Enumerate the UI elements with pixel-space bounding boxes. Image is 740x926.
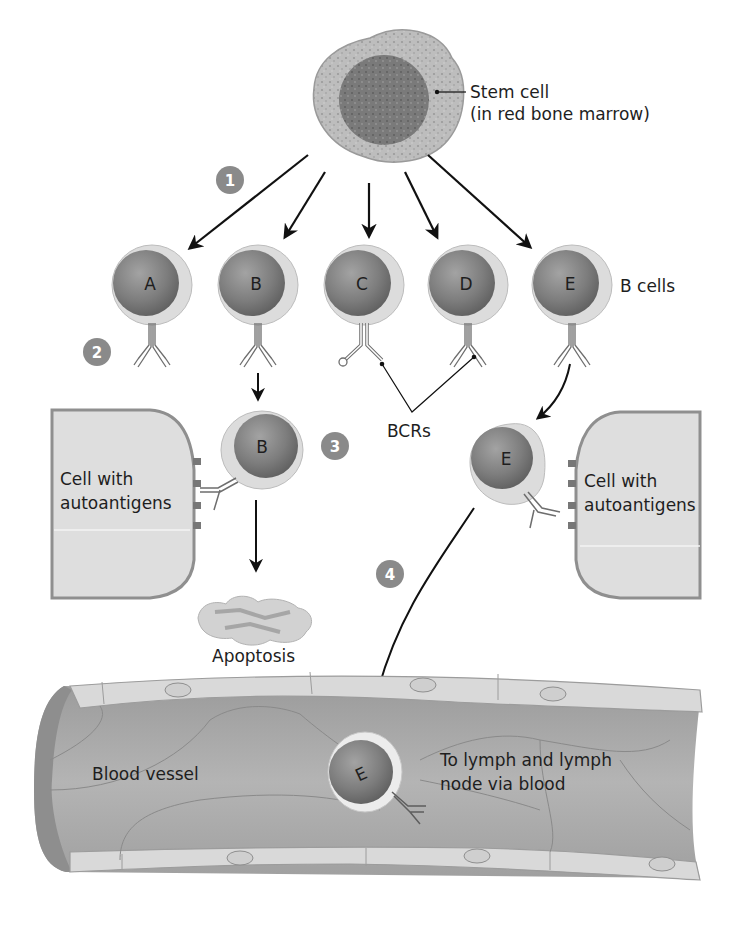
differentiation-arrows xyxy=(190,155,530,248)
endothelial-nucleus xyxy=(227,851,253,865)
right-target-label-2: autoantigens xyxy=(584,495,696,515)
b-cell-e: E xyxy=(532,245,612,367)
autoantigen-icon xyxy=(568,502,576,509)
bcr-icon xyxy=(450,323,486,367)
left-autoantigen-cell: Cell with autoantigens xyxy=(52,410,201,598)
svg-text:D: D xyxy=(459,274,472,294)
destination-label-1: To lymph and lymph xyxy=(439,750,612,770)
endothelial-nucleus xyxy=(464,849,490,863)
endothelial-nucleus xyxy=(165,683,191,697)
bcr-leader-lines xyxy=(380,355,477,412)
anergic-b-cell: E xyxy=(470,424,560,528)
step-badge-2: 2 xyxy=(83,338,111,366)
autoantigen-icon xyxy=(568,460,576,467)
b-cell-d: D xyxy=(428,245,508,367)
stem-cell-label: Stem cell xyxy=(470,82,549,102)
autoantigen-icon xyxy=(193,480,201,487)
endothelial-nucleus xyxy=(410,678,436,692)
endothelial-nucleus xyxy=(649,857,675,871)
b-cells-label: B cells xyxy=(620,276,675,296)
right-autoantigen-cell: Cell with autoantigens xyxy=(568,412,700,598)
arrow-e-down xyxy=(538,364,570,418)
autoantigen-icon xyxy=(568,522,576,529)
step-badge-4: 4 xyxy=(376,560,404,588)
blood-vessel-label: Blood vessel xyxy=(92,764,199,784)
b-cell-b: B xyxy=(218,245,298,367)
svg-text:4: 4 xyxy=(385,566,395,584)
b-cell-a: A xyxy=(112,245,192,367)
destination-label-2: node via blood xyxy=(440,774,566,794)
step-badge-3: 3 xyxy=(321,432,349,460)
svg-text:B: B xyxy=(250,274,262,294)
autoantigen-icon xyxy=(193,522,201,529)
bcr-icon xyxy=(240,323,276,367)
stem-cell-sublabel: (in red bone marrow) xyxy=(470,104,650,124)
svg-text:A: A xyxy=(144,274,156,294)
step-badge-1: 1 xyxy=(216,166,244,194)
left-target-label-1: Cell with xyxy=(60,469,133,489)
bcr-icon xyxy=(554,323,590,367)
bcr-icon xyxy=(134,323,170,367)
svg-text:C: C xyxy=(356,274,368,294)
right-target-label-1: Cell with xyxy=(584,471,657,491)
stem-cell: Stem cell (in red bone marrow) xyxy=(313,30,649,162)
svg-text:E: E xyxy=(501,449,512,469)
svg-text:E: E xyxy=(565,274,576,294)
svg-text:2: 2 xyxy=(92,344,102,362)
autoantigen-icon xyxy=(193,458,201,465)
autoantigen-icon xyxy=(193,502,201,509)
left-target-label-2: autoantigens xyxy=(60,493,172,513)
b-cell-selection-diagram: Stem cell (in red bone marrow) 1 2 3 4 A… xyxy=(0,0,740,926)
self-reactive-b-cell: B xyxy=(200,411,303,510)
endothelial-nucleus xyxy=(540,687,566,701)
arrow-to-blood xyxy=(378,508,474,690)
autoantigen-icon xyxy=(568,480,576,487)
svg-text:B: B xyxy=(256,437,268,457)
svg-text:1: 1 xyxy=(225,172,235,190)
apoptotic-cell xyxy=(198,596,312,645)
b-cell-c: C xyxy=(324,245,404,366)
svg-text:3: 3 xyxy=(330,438,340,456)
bcr-label: BCRs xyxy=(387,421,431,441)
apoptosis-label: Apoptosis xyxy=(212,646,295,666)
